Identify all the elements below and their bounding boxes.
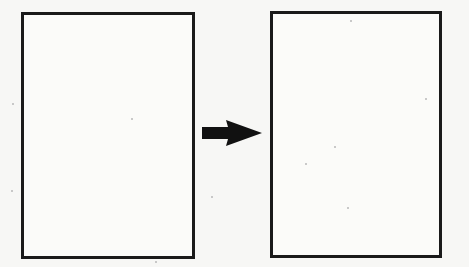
scan-speck	[12, 103, 14, 105]
scan-speck	[334, 146, 336, 148]
scan-speck	[347, 207, 349, 209]
scan-speck	[155, 261, 157, 263]
scan-speck	[211, 196, 213, 198]
right-panel-box	[270, 11, 442, 258]
scan-speck	[131, 118, 133, 120]
left-panel-box	[21, 12, 195, 259]
right-arrow-icon	[202, 118, 264, 148]
scan-speck	[11, 190, 13, 192]
scan-speck	[305, 163, 307, 165]
scan-speck	[425, 98, 427, 100]
scan-speck	[350, 20, 352, 22]
